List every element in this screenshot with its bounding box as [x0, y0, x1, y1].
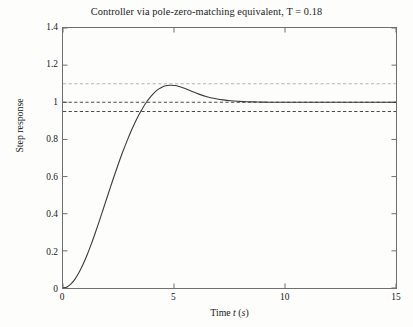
reference-lines: [63, 84, 396, 112]
plot-canvas: [63, 28, 396, 288]
figure-step-response: Controller via pole-zero-matching equiva…: [0, 0, 413, 327]
y-axis-label: Step response: [14, 66, 25, 186]
x-axis-label: Time t (s): [62, 307, 397, 318]
y-tick-label: 1.4: [18, 22, 58, 32]
chart-title: Controller via pole-zero-matching equiva…: [0, 6, 413, 17]
x-tick-label: 0: [42, 292, 82, 302]
step-response-curve: [63, 85, 396, 288]
x-axis-label-text: Time t (s): [210, 307, 248, 318]
y-tick-label: 0.4: [18, 209, 58, 219]
x-tick-label: 15: [376, 292, 413, 302]
plot-frame: [62, 27, 397, 289]
axis-tick-marks: [63, 28, 396, 288]
y-tick-label: 0.2: [18, 247, 58, 257]
x-tick-label: 5: [153, 292, 193, 302]
x-tick-label: 10: [265, 292, 305, 302]
x-axis-tick-labels: 0 5 10 15: [62, 292, 397, 308]
